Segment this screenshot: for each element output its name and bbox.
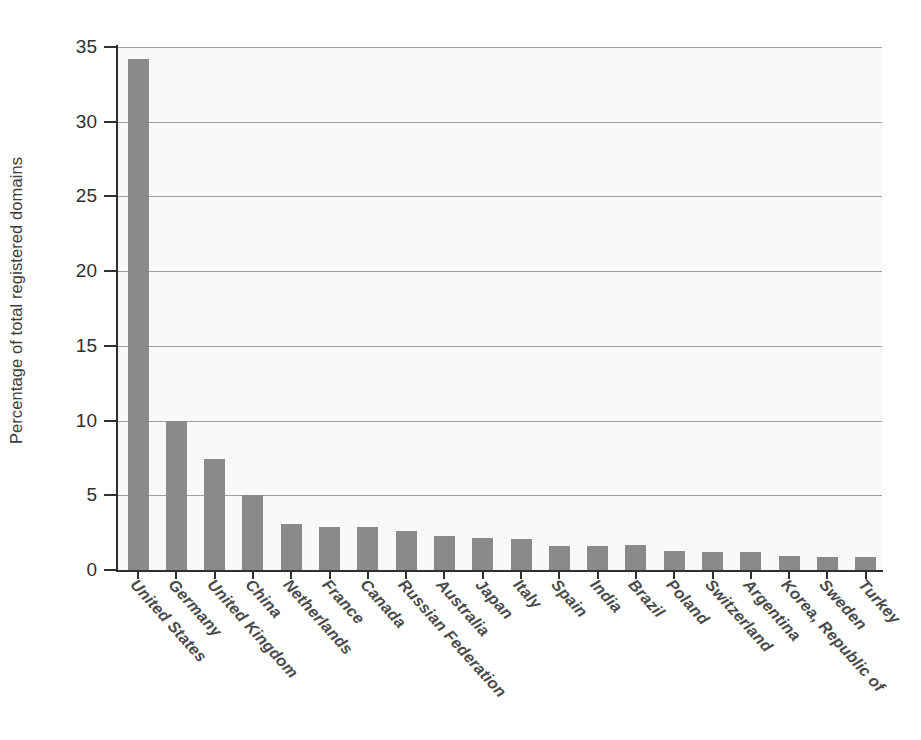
y-axis-tick-labels: 05101520253035	[0, 0, 97, 740]
bar	[740, 552, 761, 570]
y-axis-tick-label: 25	[0, 185, 97, 207]
bar	[702, 552, 723, 570]
y-axis-tick-label: 35	[0, 36, 97, 58]
y-axis-tick-mark	[104, 121, 117, 123]
y-axis-tick-label: 30	[0, 111, 97, 133]
bar	[204, 459, 225, 570]
y-axis-tick-label: 20	[0, 260, 97, 282]
bar-series	[117, 47, 882, 570]
y-axis-tick-label: 15	[0, 335, 97, 357]
bar	[779, 556, 800, 570]
bar	[357, 527, 378, 570]
bar	[396, 531, 417, 570]
bar	[281, 524, 302, 570]
x-axis-tick-label: India	[586, 576, 625, 617]
chart-figure: Percentage of total registered domains 0…	[0, 0, 921, 740]
y-axis-tick-mark	[104, 345, 117, 347]
bar	[128, 59, 149, 570]
bar	[511, 539, 532, 570]
y-axis-tick-label: 5	[0, 484, 97, 506]
x-axis-tick-labels: United StatesGermanyUnited KingdomChinaN…	[117, 576, 917, 740]
bar	[817, 557, 838, 570]
x-axis-tick-label: Italy	[510, 576, 545, 613]
y-axis-tick-label: 10	[0, 410, 97, 432]
y-axis-tick-mark	[104, 195, 117, 197]
x-axis-tick-label: Brazil	[625, 576, 668, 621]
bar	[472, 538, 493, 570]
bar	[855, 557, 876, 570]
bar	[434, 536, 455, 570]
bar	[625, 545, 646, 570]
y-axis-tick-mark	[104, 494, 117, 496]
y-axis-tick-label: 0	[0, 559, 97, 581]
bar	[319, 527, 340, 570]
y-axis-tick-mark	[104, 569, 117, 571]
bar	[242, 495, 263, 570]
y-axis-tick-mark	[104, 46, 117, 48]
bar	[587, 546, 608, 570]
bar	[549, 546, 570, 570]
y-axis-tick-mark	[104, 420, 117, 422]
bar	[664, 551, 685, 570]
bar	[166, 421, 187, 570]
y-axis-tick-mark	[104, 270, 117, 272]
x-axis-tick-label: Spain	[548, 576, 591, 621]
